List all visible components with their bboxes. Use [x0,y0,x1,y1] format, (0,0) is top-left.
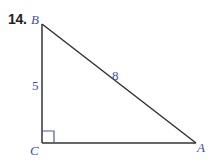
side-ab-hypotenuse [42,24,196,143]
vertex-label-b: B [31,12,39,27]
vertex-label-a: A [196,140,205,155]
side-label-bc: 5 [32,78,39,93]
vertex-label-c: C [30,143,39,158]
right-triangle-figure: B C A 5 8 [0,0,223,164]
side-label-ab: 8 [112,68,119,83]
right-angle-marker-icon [42,131,54,143]
